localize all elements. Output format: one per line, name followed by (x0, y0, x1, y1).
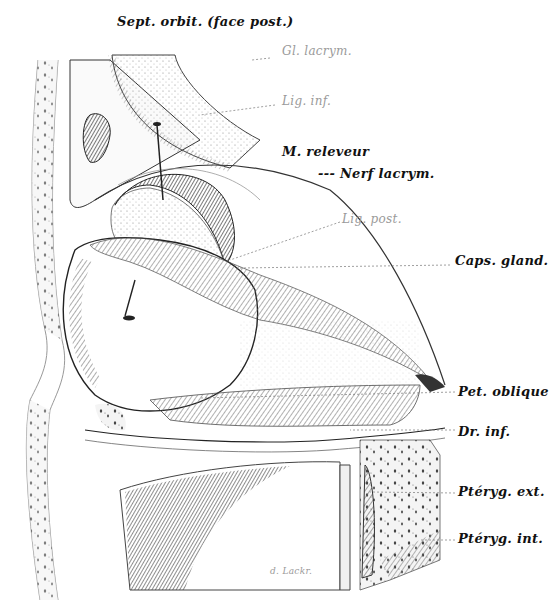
label-pteryg-int: Ptéryg. int. (458, 531, 543, 546)
label-nerf-lacrym: --- Nerf lacrym. (318, 166, 435, 181)
label-caps-gland: Caps. gland. (455, 253, 548, 268)
anatomical-drawing (0, 0, 559, 608)
label-lig-inf: Lig. inf. (282, 94, 331, 108)
maxillary-sinus (120, 462, 350, 590)
orbital-fat (240, 320, 420, 390)
artist-signature: d. Lackr. (270, 566, 312, 576)
label-m-releveur: M. releveur (282, 144, 369, 159)
pterygoid-region (360, 440, 440, 590)
label-lig-post: Lig. post. (342, 212, 402, 226)
label-sept-orbit: Sept. orbit. (face post.) (117, 14, 294, 29)
label-dr-inf: Dr. inf. (458, 424, 510, 439)
label-pteryg-ext: Ptéryg. ext. (458, 484, 545, 499)
label-pet-oblique: Pet. oblique (458, 384, 549, 399)
label-gl-lacrym: Gl. lacrym. (282, 44, 352, 58)
skin-layer (26, 60, 64, 600)
